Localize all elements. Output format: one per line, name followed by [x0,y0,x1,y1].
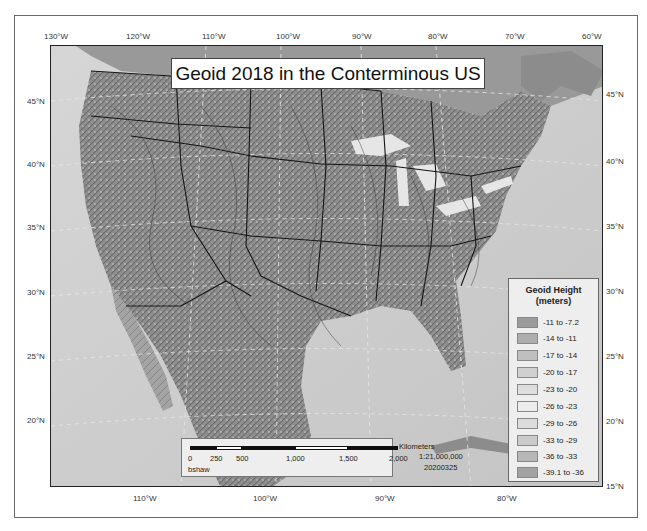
legend-label: -17 to -14 [543,351,577,360]
lon-tick-top: 60°W [582,32,602,41]
scale-tick: 0 [188,454,192,463]
legend-swatch [517,418,538,429]
map-date: 20200325 [424,463,457,472]
legend-label: -20 to -17 [543,368,577,377]
lon-tick-top: 100°W [276,32,300,41]
scale-segment [295,446,348,450]
lat-tick-right: 45°N [606,90,624,99]
lat-tick-left: 30°N [27,288,45,297]
legend-swatch [517,317,538,328]
legend-item: -29 to -26 [517,417,577,429]
legend-swatch [517,435,538,446]
scale-ratio: 1:21,000,000 [419,452,463,461]
legend: Geoid Height (meters) -11 to -7.2 -14 to… [508,278,599,482]
scale-unit: Kilometers [399,442,434,451]
map-title: Geoid 2018 in the Conterminous US [171,58,485,89]
legend-swatch [517,451,538,462]
map-canvas[interactable]: Geoid 2018 in the Conterminous US Geoid … [50,45,603,487]
lat-tick-right: 20°N [606,417,624,426]
lat-tick-right: 25°N [606,352,624,361]
legend-swatch [517,350,538,361]
legend-item: -26 to -23 [517,400,577,412]
lon-tick-top: 110°W [202,32,226,41]
scale-segment [348,446,398,450]
scale-bar-box: Kilometers 0 250 500 1,000 1,500 2,000 b… [181,438,393,477]
legend-label: -29 to -26 [543,419,577,428]
legend-label: -36 to -33 [543,452,577,461]
lon-tick-bottom: 100°W [253,494,277,503]
lat-tick-left: 25°N [27,352,45,361]
legend-label: -23 to -20 [543,385,577,394]
lon-tick-top: 130°W [44,32,68,41]
lat-tick-left: 45°N [27,97,45,106]
lon-tick-bottom: 80°W [497,494,517,503]
legend-label: -26 to -23 [543,402,577,411]
lat-tick-right: 35°N [606,222,624,231]
lon-tick-bottom: 90°W [375,494,395,503]
legend-label: -39.1 to -36 [543,468,584,477]
map-author: bshaw [188,465,210,474]
legend-item: -20 to -17 [517,366,577,378]
lon-tick-top: 90°W [352,32,372,41]
legend-swatch [517,367,538,378]
lon-tick-bottom: 110°W [133,494,157,503]
scale-tick: 500 [236,454,249,463]
legend-title-line2: (meters) [509,296,598,307]
scale-tick: 1,000 [286,454,305,463]
scale-segment [190,446,216,450]
legend-item: -11 to -7.2 [517,316,579,328]
legend-item: -33 to -29 [517,434,577,446]
lat-tick-right: 30°N [606,287,624,296]
legend-item: -14 to -11 [517,332,577,344]
legend-swatch [517,333,538,344]
legend-label: -14 to -11 [543,334,577,343]
legend-item: -17 to -14 [517,349,577,361]
lat-tick-left: 35°N [27,223,45,232]
scale-tick: 1,500 [339,454,358,463]
scale-segment [242,446,295,450]
lon-tick-top: 120°W [126,32,150,41]
legend-title-line1: Geoid Height [509,285,598,296]
scale-segment [216,446,242,450]
lon-tick-top: 80°W [428,32,448,41]
lat-tick-right: 40°N [606,157,624,166]
lat-tick-left: 40°N [27,160,45,169]
legend-item: -39.1 to -36 [517,466,584,478]
legend-swatch [517,467,538,478]
scale-tick: 2,000 [389,454,408,463]
lon-tick-top: 70°W [505,32,525,41]
legend-title: Geoid Height (meters) [509,285,598,307]
legend-swatch [517,401,538,412]
lat-tick-right: 15°N [606,482,624,491]
legend-item: -23 to -20 [517,383,577,395]
scale-tick: 250 [210,454,223,463]
legend-swatch [517,384,538,395]
legend-item: -36 to -33 [517,450,577,462]
legend-label: -33 to -29 [543,436,577,445]
lat-tick-left: 20°N [27,416,45,425]
legend-label: -11 to -7.2 [543,318,579,327]
